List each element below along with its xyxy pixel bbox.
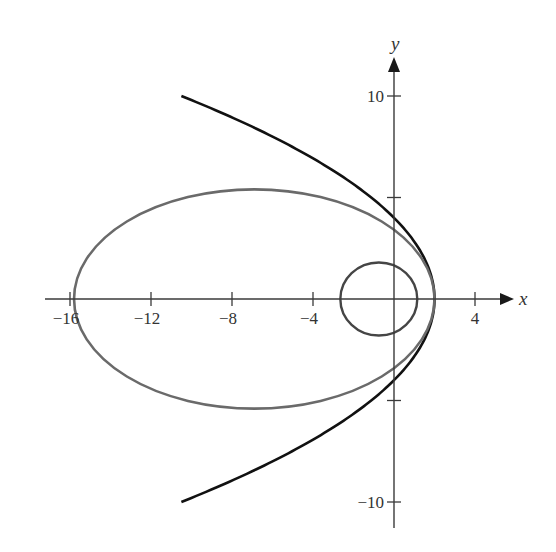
- x-axis-arrow-icon: [500, 293, 514, 305]
- x-tick-label: −16: [53, 309, 80, 328]
- y-tick-label: 10: [367, 87, 384, 106]
- x-tick-label: −8: [219, 309, 237, 328]
- y-axis-arrow-icon: [388, 57, 400, 72]
- y-tick-label: −10: [357, 493, 384, 512]
- y-axis-label: y: [389, 33, 400, 54]
- x-tick-label: 4: [471, 309, 480, 328]
- chart-canvas: x y −16−12−8−4410−10: [0, 0, 556, 552]
- x-tick-label: −4: [300, 309, 319, 328]
- x-tick-label: −12: [134, 309, 161, 328]
- x-axis-label: x: [518, 288, 528, 309]
